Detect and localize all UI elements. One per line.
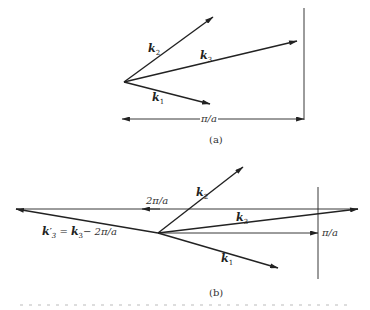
k2-label-a: k2	[148, 43, 160, 57]
k2-label-b: k2	[196, 187, 208, 201]
k3-label-a: k3	[200, 50, 212, 64]
clipped-caption-strip	[20, 304, 350, 306]
k1-vector-b	[158, 233, 278, 268]
caption-a: (a)	[209, 135, 223, 145]
caption-b: (b)	[209, 288, 223, 298]
pi-over-a-label-b: π/a	[322, 228, 338, 238]
pi-over-a-label-a: π/a	[200, 114, 218, 124]
part-b-diagram	[16, 167, 358, 279]
k1-vector-a	[124, 82, 210, 104]
k3-label-b: k3	[236, 212, 248, 226]
part-a-diagram	[122, 8, 304, 120]
k1-label-b: k1	[221, 253, 233, 267]
reciprocal-lattice-diagram	[0, 0, 370, 310]
two-pi-over-a-label: 2π/a	[146, 196, 168, 206]
folded-k3-label: k′3 = k3− 2π/a	[42, 226, 117, 240]
k1-label-a: k1	[152, 92, 164, 106]
